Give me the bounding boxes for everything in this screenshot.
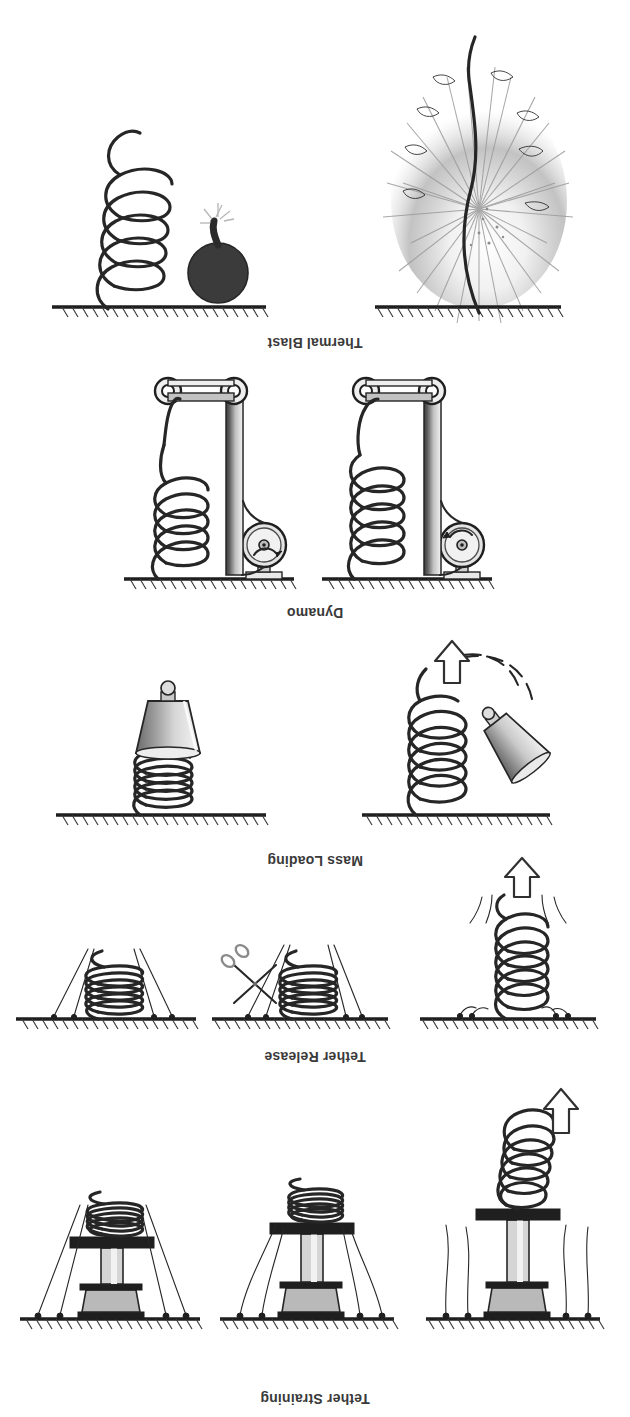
swing-path <box>464 654 532 699</box>
actuator-shaft <box>301 1234 323 1282</box>
belt-rollers <box>155 378 247 404</box>
dynamo-wheel <box>242 523 286 567</box>
actuator-shaft <box>507 1220 529 1282</box>
ceiling-support <box>220 1319 398 1329</box>
actuator-head <box>78 1284 144 1319</box>
group-title-dynamo: Dynamo <box>0 605 630 621</box>
spring-coil <box>348 399 404 579</box>
scissors-icon <box>219 943 276 1003</box>
ceiling-support <box>56 815 268 825</box>
panel-dy-2 <box>120 357 300 597</box>
ceiling-support <box>420 1019 598 1029</box>
spring-coil <box>496 895 549 1019</box>
spring-plate <box>476 1209 560 1220</box>
panel-ts-2 <box>212 1177 412 1377</box>
panel-ml-2 <box>50 652 280 837</box>
group-thermal-blast: Thermal Blast <box>0 0 630 357</box>
mass-weight <box>466 694 553 787</box>
figure-root: Tether Straining <box>0 0 630 1417</box>
group-title-tether-straining: Tether Straining <box>0 1391 630 1407</box>
spring-plate <box>70 1237 154 1248</box>
ceiling-support <box>322 579 494 589</box>
group-title-tether-release: Tether Release <box>0 1049 630 1065</box>
spring-coil <box>134 750 192 815</box>
travel-arrow <box>544 1089 578 1133</box>
panel-tr-3 <box>2 911 202 1041</box>
panel-tb-1 <box>360 29 575 329</box>
panel-ts-3 <box>10 1177 210 1377</box>
spring-coil <box>87 1192 142 1236</box>
belt-rollers <box>353 378 445 404</box>
spring-coil <box>408 669 466 815</box>
group-tether-straining: Tether Straining <box>0 1077 630 1417</box>
panel-dy-1 <box>318 357 498 597</box>
ceiling-support <box>362 815 552 825</box>
group-mass-loading: Mass Loading <box>0 627 630 877</box>
actuator-head <box>484 1282 550 1319</box>
panel-ml-1 <box>350 627 570 837</box>
travel-arrow <box>435 641 469 683</box>
panel-tr-1 <box>410 851 610 1041</box>
blast-plume <box>383 67 573 323</box>
ceiling-support <box>124 579 296 589</box>
panel-tb-2 <box>45 99 280 329</box>
spring-coil <box>152 398 208 579</box>
actuator-head <box>278 1282 344 1319</box>
explosive-charge <box>188 203 248 303</box>
ceiling-support <box>375 307 563 317</box>
spring-coil <box>498 1110 554 1209</box>
ceiling-support <box>20 1319 202 1329</box>
spring-coil <box>289 1179 343 1222</box>
spring-coil <box>280 951 337 1019</box>
panel-tr-2 <box>202 911 402 1041</box>
dynamo-wheel <box>440 523 484 567</box>
group-dynamo: Dynamo <box>0 347 630 627</box>
spring-coil <box>86 951 143 1019</box>
actuator-shaft <box>101 1248 123 1284</box>
ceiling-support <box>52 307 268 317</box>
ceiling-support <box>16 1019 198 1029</box>
group-tether-release: Tether Release <box>0 877 630 1077</box>
ceiling-support <box>426 1319 604 1329</box>
ceiling-support <box>212 1019 390 1029</box>
group-title-thermal-blast: Thermal Blast <box>0 335 630 351</box>
mass-weight <box>136 681 200 759</box>
group-title-mass-loading: Mass Loading <box>0 853 630 869</box>
panel-ts-1 <box>418 1087 618 1377</box>
spring-coil <box>97 131 172 309</box>
cut-tether-stubs <box>460 895 568 1015</box>
